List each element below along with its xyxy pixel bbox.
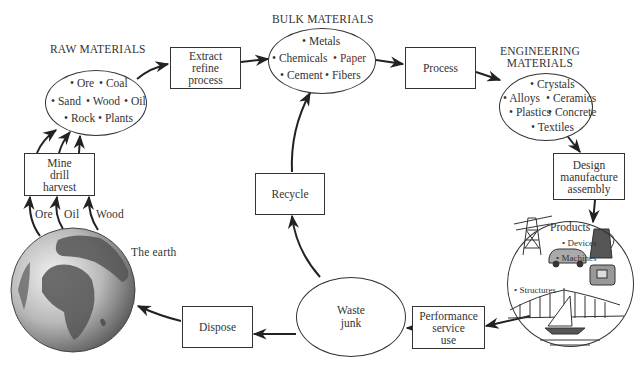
dispose-box: Dispose xyxy=(182,306,253,348)
bulk-materials-title: BULK MATERIALS xyxy=(272,13,374,25)
extract-line1: Extract xyxy=(188,50,223,62)
arrow-design-to-products xyxy=(593,200,595,222)
mine-line1: Mine xyxy=(43,157,76,169)
extract-line2: refine xyxy=(188,62,223,74)
earth-label: The earth xyxy=(131,246,177,258)
recycle-label: Recycle xyxy=(271,188,308,200)
waste-label-line2: junk xyxy=(297,317,405,330)
design-line2: manufacture xyxy=(560,171,617,183)
design-line1: Design xyxy=(560,159,617,171)
arrow-bulk-to-process xyxy=(376,60,403,64)
products-circle: Products • Devices • Machines • Structur… xyxy=(507,221,634,347)
eng-item-ceramics: • Ceramics xyxy=(546,92,596,104)
products-item-devices: • Devices xyxy=(562,238,596,248)
earth-globe-icon xyxy=(11,228,135,352)
eng-item-plastics: • Plastics xyxy=(509,106,551,118)
arrow-extract-to-bulk xyxy=(241,59,268,62)
raw-materials-ellipse: • Ore • Coal • Sand • Wood • Oil • Rock … xyxy=(45,70,147,136)
eng-item-alloys: • Alloys xyxy=(503,92,540,104)
eng-item-crystals: • Crystals xyxy=(530,78,575,90)
mine-drill-harvest-box: Minedrillharvest xyxy=(24,153,95,196)
arrow-earth-oil xyxy=(56,197,63,229)
raw-materials-title: RAW MATERIALS xyxy=(50,43,146,55)
process-box: Process xyxy=(405,47,476,89)
performance-line2: service xyxy=(419,322,478,334)
dispose-label: Dispose xyxy=(199,321,236,333)
bulk-item-chemicals: • Chemicals xyxy=(272,52,327,64)
earth-flow-ore: Ore xyxy=(35,208,53,220)
design-manufacture-assembly-box: Designmanufactureassembly xyxy=(553,153,625,200)
performance-line1: Performance xyxy=(419,310,478,322)
arrow-dispose-to-earth xyxy=(138,306,181,321)
extract-refine-process-box: Extractrefineprocess xyxy=(170,47,241,89)
performance-service-use-box: Performanceserviceuse xyxy=(412,306,485,349)
products-item-machines: • Machines xyxy=(556,253,596,263)
arrow-mine-to-raw-2 xyxy=(59,132,70,153)
waste-label-line1: Waste xyxy=(297,304,405,317)
extract-line3: process xyxy=(188,74,223,86)
mine-line2: drill xyxy=(43,169,76,181)
raw-item-sand: • Sand xyxy=(51,95,81,107)
raw-item-oil: • Oil xyxy=(124,95,146,107)
recycle-box: Recycle xyxy=(255,173,325,215)
engineering-materials-title-line2: MATERIALS xyxy=(500,57,580,69)
bulk-item-fibers: • Fibers xyxy=(325,69,361,81)
earth-flow-wood: Wood xyxy=(96,208,124,220)
arrow-process-to-engineering xyxy=(476,72,500,80)
bulk-item-paper: • Paper xyxy=(333,52,366,64)
mine-line3: harvest xyxy=(43,181,76,193)
eng-item-textiles: • Textiles xyxy=(531,121,574,133)
raw-item-ore: • Ore xyxy=(70,77,94,89)
process-label: Process xyxy=(423,62,458,74)
arrow-mine-to-raw-3 xyxy=(79,136,80,153)
raw-item-plants: • Plants xyxy=(98,112,133,124)
eng-item-concrete: • Concrete xyxy=(548,106,596,118)
waste-ellipse: Waste junk xyxy=(296,277,406,357)
arrow-waste-to-recycle xyxy=(292,216,320,277)
raw-item-rock: • Rock xyxy=(64,112,95,124)
raw-item-coal: • Coal xyxy=(99,77,128,89)
design-line3: assembly xyxy=(560,183,617,195)
raw-item-wood: • Wood xyxy=(86,95,120,107)
bulk-item-cement: • Cement xyxy=(280,69,323,81)
arrow-mine-to-raw-1 xyxy=(37,130,56,153)
products-title: Products xyxy=(550,221,590,233)
products-item-structures: • Structures xyxy=(514,285,556,295)
arrow-recycle-to-bulk xyxy=(292,93,310,172)
earth-flow-oil: Oil xyxy=(64,208,79,220)
bulk-item-metals: • Metals xyxy=(302,35,340,47)
engineering-materials-ellipse: • Crystals • Alloys • Ceramics • Plastic… xyxy=(499,73,593,141)
performance-line3: use xyxy=(419,334,478,346)
arrow-raw-to-extract xyxy=(137,64,168,79)
bulk-materials-ellipse: • Metals • Chemicals • Paper • Cement • … xyxy=(268,28,376,94)
engineering-materials-title-line1: ENGINEERING xyxy=(500,45,580,57)
